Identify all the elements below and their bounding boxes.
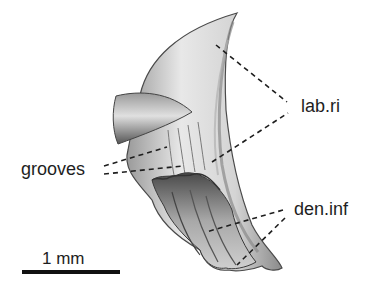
label-lab-ri: lab.ri bbox=[301, 97, 340, 115]
label-grooves: grooves bbox=[21, 160, 85, 178]
scale-bar-label: 1 mm bbox=[42, 250, 85, 267]
leader-labri-upper bbox=[216, 45, 287, 102]
label-den-inf: den.inf bbox=[294, 200, 348, 218]
scale-bar bbox=[22, 270, 120, 274]
